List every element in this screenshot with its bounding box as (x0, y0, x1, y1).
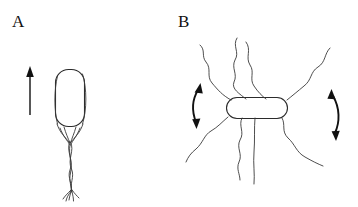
panel-a-group (26, 66, 86, 201)
panel-b-group (186, 38, 340, 184)
figure-artwork (0, 0, 358, 207)
run-direction-arrow (26, 66, 34, 115)
tumble-arrow-right (327, 89, 339, 141)
flagella-lower-b (186, 117, 323, 184)
flagellum-lower-center-left (238, 118, 242, 180)
cell-body-b (227, 98, 288, 119)
flagellar-bundle-a (57, 124, 83, 201)
tumble-arrow-left (192, 83, 203, 129)
cell-body-a (56, 70, 85, 127)
flagellum-lower-center (254, 118, 255, 184)
flagellum-lower-right (282, 118, 323, 166)
flagellum-upper-right (287, 48, 330, 100)
bacterial-motility-figure: A B (0, 0, 358, 207)
flagellum-lower-left (186, 117, 228, 162)
flagella-upper-b (200, 38, 330, 100)
flagellum-upper-center-right (246, 42, 266, 99)
flagellum-upper-center-left (233, 38, 246, 99)
flagellum-upper-left (200, 45, 231, 100)
